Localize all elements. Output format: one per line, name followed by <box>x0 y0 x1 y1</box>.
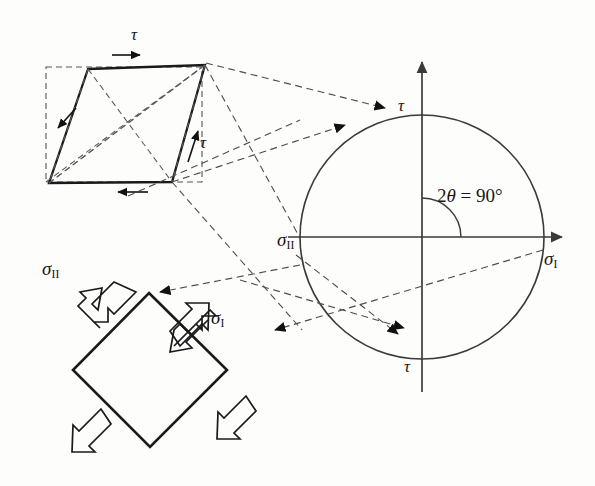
leader-lines-top <box>172 63 385 182</box>
sigma-glyph: σ <box>211 307 220 328</box>
angle-value: = 90 <box>461 185 495 206</box>
sigma-I-label-circle: σI <box>544 248 558 272</box>
tau-label-parallelogram-right: τ <box>200 133 206 153</box>
tension-arrow-top-right <box>170 303 216 352</box>
sigma-glyph: σ <box>544 248 553 269</box>
sigma-subscript: I <box>553 258 557 271</box>
sigma-I-label-square: σI <box>211 307 225 331</box>
shear-arrow-left <box>58 108 76 128</box>
sigma-subscript: II <box>286 239 294 252</box>
sigma-II-label-square: σII <box>42 258 60 282</box>
theta-symbol: θ <box>447 185 456 206</box>
sigma-glyph: σ <box>277 229 286 250</box>
tau-label-circle-top: τ <box>398 96 404 116</box>
mohr-axes <box>288 62 562 392</box>
sigma-II-label-circle: σII <box>277 229 295 253</box>
sigma-subscript: I <box>220 317 224 330</box>
figure-canvas <box>0 0 595 486</box>
tension-arrow-bottom-left <box>72 409 111 452</box>
shear-arrow-right <box>188 131 198 162</box>
tau-label-parallelogram-top: τ <box>131 25 137 45</box>
sigma-subscript: II <box>51 268 59 281</box>
degree-symbol: ° <box>495 185 503 206</box>
tau-label-circle-bottom: τ <box>404 357 410 377</box>
central-angle-label: 2θ = 90° <box>437 185 503 207</box>
compression-arrow-top-left <box>78 282 136 328</box>
angle-coefficient: 2 <box>437 185 447 206</box>
compression-arrow-bottom-right <box>217 396 256 439</box>
mohr-circle-figure: τ τ τ τ 2θ = 90° σII σI σII σI <box>0 0 595 486</box>
sheared-parallelogram <box>46 65 205 183</box>
sigma-glyph: σ <box>42 258 51 279</box>
